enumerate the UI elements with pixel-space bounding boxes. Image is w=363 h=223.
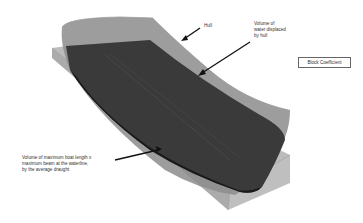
hull-label: Hull [204, 23, 212, 29]
water-arrow [198, 42, 250, 76]
block-coefficient-diagram [0, 0, 363, 223]
hull-arrow [181, 28, 200, 41]
hull [62, 17, 290, 195]
box-label-line-3: by the average draught [22, 167, 91, 173]
water-displaced-label: Volume of water displaced by hull [254, 21, 286, 39]
bounding-box-label: Volume of maximum boat length x maximum … [22, 155, 91, 173]
water-label-line-3: by hull [254, 33, 286, 39]
block-coefficient-title: Block Coefficient [298, 57, 351, 68]
